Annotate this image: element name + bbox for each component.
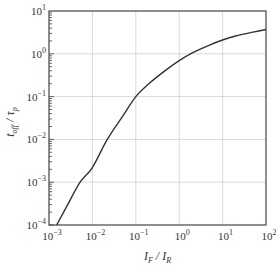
grid-lines — [49, 11, 266, 225]
x-tick-label: 100 — [175, 228, 190, 242]
x-tick-label: 101 — [218, 228, 233, 242]
y-tick-label: 10−4 — [26, 217, 46, 231]
minor-ticks — [49, 13, 54, 225]
plot-frame — [49, 11, 266, 225]
x-axis-label: IF / IR — [143, 249, 171, 265]
y-tick-labels: 10−410−310−210−1100101 — [26, 3, 46, 231]
y-tick-label: 10−3 — [26, 174, 46, 188]
data-line — [57, 29, 266, 225]
y-tick-label: 10−1 — [26, 89, 46, 103]
x-tick-label: 10−1 — [129, 228, 149, 242]
y-tick-label: 101 — [31, 3, 46, 17]
y-axis-label: toff / τp — [3, 107, 19, 136]
x-tick-label: 102 — [262, 228, 277, 242]
y-tick-label: 100 — [31, 46, 46, 60]
x-tick-labels: 10−310−210−1100101102 — [42, 228, 276, 242]
x-tick-label: 10−2 — [86, 228, 106, 242]
y-tick-label: 10−2 — [26, 131, 46, 145]
chart: 10−310−210−1100101102 10−410−310−210−110… — [0, 0, 279, 268]
x-tick-label: 10−3 — [42, 228, 62, 242]
